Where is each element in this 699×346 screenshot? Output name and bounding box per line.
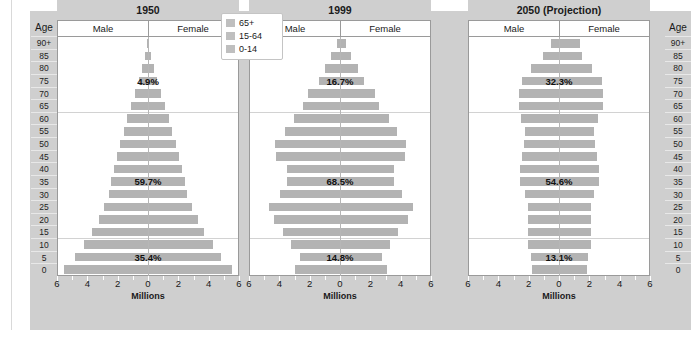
bar-male-60[interactable] xyxy=(521,114,559,123)
bar-male-55[interactable] xyxy=(285,127,341,136)
bar-male-60[interactable] xyxy=(294,114,341,123)
bar-female-90[interactable] xyxy=(559,39,580,48)
legend-item-15to64[interactable]: 15-64 xyxy=(226,30,282,43)
bar-male-15[interactable] xyxy=(283,228,340,237)
bar-female-50[interactable] xyxy=(148,140,176,149)
bar-female-75[interactable] xyxy=(559,77,602,86)
bar-male-55[interactable] xyxy=(124,127,148,136)
bar-male-75[interactable] xyxy=(522,77,560,86)
bar-male-70[interactable] xyxy=(135,89,148,98)
bar-male-5[interactable] xyxy=(531,253,560,262)
bar-male-30[interactable] xyxy=(109,190,148,199)
bar-male-5[interactable] xyxy=(300,253,341,262)
bar-male-60[interactable] xyxy=(127,114,148,123)
bar-female-25[interactable] xyxy=(559,203,591,212)
bar-male-65[interactable] xyxy=(303,102,341,111)
bar-male-85[interactable] xyxy=(331,52,340,61)
bar-male-40[interactable] xyxy=(287,165,340,174)
bar-female-55[interactable] xyxy=(559,127,594,136)
bar-male-80[interactable] xyxy=(325,64,340,73)
bar-female-10[interactable] xyxy=(559,240,591,249)
bar-female-10[interactable] xyxy=(148,240,213,249)
bar-female-15[interactable] xyxy=(340,228,398,237)
bar-male-20[interactable] xyxy=(99,215,149,224)
bar-female-0[interactable] xyxy=(559,265,587,274)
bar-female-30[interactable] xyxy=(340,190,402,199)
bar-female-5[interactable] xyxy=(148,253,221,262)
bar-female-65[interactable] xyxy=(559,102,603,111)
bar-female-15[interactable] xyxy=(148,228,204,237)
bar-male-70[interactable] xyxy=(308,89,340,98)
bar-female-65[interactable] xyxy=(148,102,165,111)
bar-male-45[interactable] xyxy=(522,152,560,161)
bar-female-50[interactable] xyxy=(559,140,595,149)
bar-female-55[interactable] xyxy=(340,127,397,136)
bar-male-65[interactable] xyxy=(519,102,560,111)
bar-female-25[interactable] xyxy=(148,203,192,212)
bar-female-35[interactable] xyxy=(148,177,185,186)
bar-female-75[interactable] xyxy=(148,77,157,86)
bar-male-0[interactable] xyxy=(532,265,559,274)
bar-male-80[interactable] xyxy=(531,64,559,73)
bar-female-85[interactable] xyxy=(340,52,351,61)
bar-male-50[interactable] xyxy=(275,140,340,149)
bar-female-80[interactable] xyxy=(559,64,592,73)
bar-female-30[interactable] xyxy=(148,190,187,199)
bar-male-90[interactable] xyxy=(551,39,559,48)
bar-female-65[interactable] xyxy=(340,102,379,111)
bar-male-40[interactable] xyxy=(520,165,559,174)
bar-female-60[interactable] xyxy=(148,114,169,123)
bar-female-45[interactable] xyxy=(559,152,597,161)
bar-female-15[interactable] xyxy=(559,228,591,237)
bar-male-15[interactable] xyxy=(528,228,560,237)
bar-female-20[interactable] xyxy=(340,215,408,224)
bar-female-0[interactable] xyxy=(340,265,387,274)
bar-female-60[interactable] xyxy=(340,114,389,123)
bar-male-75[interactable] xyxy=(139,77,148,86)
bar-female-0[interactable] xyxy=(148,265,232,274)
bar-female-10[interactable] xyxy=(340,240,390,249)
bar-female-5[interactable] xyxy=(559,253,588,262)
bar-male-25[interactable] xyxy=(528,203,560,212)
bar-male-25[interactable] xyxy=(104,203,148,212)
bar-female-40[interactable] xyxy=(148,165,182,174)
bar-female-70[interactable] xyxy=(148,89,161,98)
bar-female-35[interactable] xyxy=(559,177,599,186)
bar-male-35[interactable] xyxy=(111,177,148,186)
bar-female-75[interactable] xyxy=(340,77,364,86)
bar-male-65[interactable] xyxy=(131,102,148,111)
bar-female-25[interactable] xyxy=(340,203,413,212)
bar-male-20[interactable] xyxy=(274,215,340,224)
bar-female-20[interactable] xyxy=(559,215,591,224)
bar-female-5[interactable] xyxy=(340,253,382,262)
bar-male-45[interactable] xyxy=(117,152,148,161)
bar-female-80[interactable] xyxy=(340,64,358,73)
bar-male-50[interactable] xyxy=(120,140,148,149)
bar-male-20[interactable] xyxy=(528,215,560,224)
bar-male-85[interactable] xyxy=(543,52,559,61)
bar-male-15[interactable] xyxy=(92,228,148,237)
bar-female-60[interactable] xyxy=(559,114,598,123)
bar-male-30[interactable] xyxy=(280,190,340,199)
bar-female-40[interactable] xyxy=(340,165,394,174)
bar-male-35[interactable] xyxy=(520,177,559,186)
bar-female-70[interactable] xyxy=(340,89,375,98)
bar-male-75[interactable] xyxy=(319,77,340,86)
legend-item-0to14[interactable]: 0-14 xyxy=(226,43,282,56)
bar-female-85[interactable] xyxy=(559,52,582,61)
bar-male-25[interactable] xyxy=(269,203,340,212)
bar-female-20[interactable] xyxy=(148,215,198,224)
bar-male-50[interactable] xyxy=(524,140,559,149)
bar-male-0[interactable] xyxy=(64,265,148,274)
bar-male-40[interactable] xyxy=(114,165,148,174)
bar-male-5[interactable] xyxy=(75,253,148,262)
bar-male-10[interactable] xyxy=(528,240,560,249)
bar-female-70[interactable] xyxy=(559,89,603,98)
bar-male-70[interactable] xyxy=(519,89,560,98)
bar-male-35[interactable] xyxy=(287,177,340,186)
bar-female-35[interactable] xyxy=(340,177,394,186)
bar-female-30[interactable] xyxy=(559,190,594,199)
bar-female-50[interactable] xyxy=(340,140,406,149)
legend-item-65plus[interactable]: 65+ xyxy=(226,17,282,30)
bar-male-45[interactable] xyxy=(276,152,340,161)
